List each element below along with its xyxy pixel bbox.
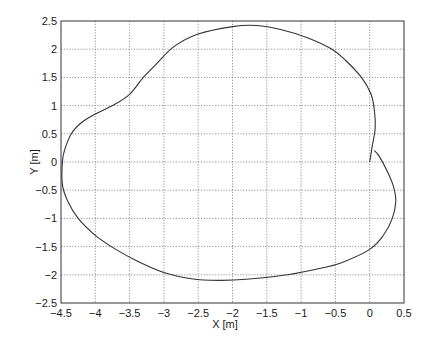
trajectory-line (62, 25, 396, 280)
y-tick-label: 1.5 (42, 71, 57, 83)
y-axis-label: Y [m] (28, 149, 40, 174)
x-axis-label: X [m] (212, 318, 238, 330)
y-tick-label: −2.5 (35, 297, 57, 309)
x-tick-label: −0.5 (325, 307, 347, 319)
x-tick-label: −1 (295, 307, 308, 319)
grid-lines (61, 21, 404, 303)
x-tick-label: −1.5 (256, 307, 278, 319)
y-tick-label: 2.5 (42, 15, 57, 27)
x-tick-label: −3.5 (119, 307, 141, 319)
x-tick-label: −4 (89, 307, 102, 319)
y-tick-label: 0 (51, 156, 57, 168)
y-tick-label: 1 (51, 100, 57, 112)
y-tick-label: −1 (44, 212, 57, 224)
y-tick-label: −0.5 (35, 184, 57, 196)
y-tick-label: 2 (51, 43, 57, 55)
x-tick-label: 0 (367, 307, 373, 319)
y-tick-label: −1.5 (35, 241, 57, 253)
x-tick-label: −3 (158, 307, 171, 319)
y-tick-label: −2 (44, 269, 57, 281)
y-tick-label: 0.5 (42, 128, 57, 140)
x-tick-label: −2.5 (187, 307, 209, 319)
x-tick-label: 0.5 (396, 307, 411, 319)
trajectory-chart: −4.5−4−3.5−3−2.5−2−1.5−1−0.500.5 −2.5−2−… (0, 0, 431, 348)
